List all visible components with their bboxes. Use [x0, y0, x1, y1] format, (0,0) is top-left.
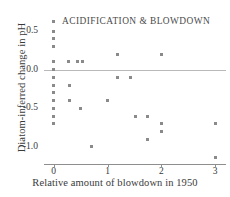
data-point [81, 60, 84, 63]
y-tick-label: 0.5 [8, 25, 38, 35]
data-point [79, 107, 82, 110]
x-tick-label: 3 [205, 166, 225, 176]
data-point [68, 99, 71, 102]
data-point [214, 122, 217, 125]
data-point [146, 115, 149, 118]
x-tick-label: 0 [44, 166, 64, 176]
data-point [52, 115, 55, 118]
data-point [52, 60, 55, 63]
data-point [52, 37, 55, 40]
data-point [134, 115, 137, 118]
data-point [116, 76, 119, 79]
x-tick-label: 1 [98, 166, 118, 176]
data-point [67, 60, 70, 63]
plot-area [44, 14, 226, 164]
data-point [52, 91, 55, 94]
data-point [52, 84, 55, 87]
data-point [106, 99, 109, 102]
y-tick-label: 0.0 [8, 64, 38, 74]
data-point [160, 53, 163, 56]
x-tick-label: 2 [151, 166, 171, 176]
data-point [129, 76, 132, 79]
data-point [76, 60, 79, 63]
data-point [90, 145, 93, 148]
data-point [160, 122, 163, 125]
y-tick-label: -0.5 [8, 102, 38, 112]
x-axis-line [44, 164, 226, 165]
data-point [52, 76, 55, 79]
data-point [52, 45, 55, 48]
data-point [160, 130, 163, 133]
data-point [52, 107, 55, 110]
y-tick-label: -1.0 [8, 141, 38, 151]
data-point [52, 122, 55, 125]
zero-reference-line [44, 70, 226, 71]
data-point [52, 68, 55, 71]
x-axis-label: Relative amount of blowdown in 1950 [0, 177, 230, 188]
scatter-chart-figure: ACIDIFICATION & BLOWDOWN Diatom-inferred… [0, 0, 230, 197]
data-point [68, 84, 71, 87]
data-point [52, 30, 55, 33]
data-point [146, 138, 149, 141]
data-point [52, 20, 55, 23]
data-point [52, 99, 55, 102]
data-point [214, 156, 217, 159]
data-point [116, 53, 119, 56]
